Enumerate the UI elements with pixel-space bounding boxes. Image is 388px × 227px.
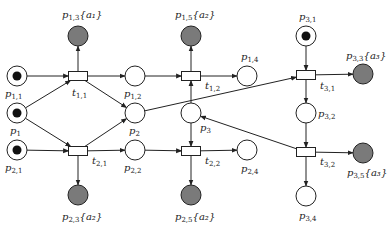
place-label-p13: p1,3{a₁} — [62, 9, 102, 22]
token-icon — [302, 32, 311, 41]
place-p24 — [237, 140, 257, 160]
place-label-p14: p1,4 — [241, 51, 259, 64]
transition-label-t31: t3,1 — [320, 80, 335, 93]
place-label-p31: p3,1 — [299, 11, 317, 24]
transition-label-t22: t2,2 — [205, 155, 220, 168]
place-label-p22: p2,2 — [124, 162, 142, 175]
place-p14 — [237, 66, 257, 86]
place-label-p35: p3,5{a₃} — [347, 167, 387, 180]
arc-t21-to-p2 — [85, 119, 127, 147]
place-p22 — [125, 140, 145, 160]
token-icon — [13, 72, 22, 81]
place-p35 — [353, 143, 373, 163]
arc-t22-to-p24 — [201, 150, 238, 151]
place-label-p2: p2 — [129, 125, 140, 138]
place-p2 — [125, 103, 145, 123]
place-label-p25: p2,5{a₂} — [175, 211, 215, 224]
place-label-p3: p3 — [200, 122, 211, 135]
arc-t11-to-p2 — [85, 81, 127, 108]
transition-label-t32: t3,2 — [320, 156, 335, 169]
arc-t31-to-p33 — [316, 74, 354, 75]
transition-t21 — [69, 147, 88, 156]
place-label-p12: p1,2 — [124, 88, 142, 101]
arc-p1-to-t21 — [25, 118, 70, 146]
place-label-p15: p1,5{a₂} — [175, 9, 215, 22]
transition-t22 — [182, 147, 201, 156]
place-p32 — [296, 103, 316, 123]
place-label-p33: p3,3{a₃} — [346, 50, 386, 63]
transition-label-t12: t1,2 — [205, 80, 220, 93]
place-p3 — [181, 103, 201, 123]
transition-label-t21: t2,1 — [92, 155, 107, 168]
arc-p21-to-t21 — [27, 150, 69, 151]
place-label-p23: p2,3{a₂} — [62, 211, 102, 224]
place-p25 — [181, 185, 201, 205]
transition-t31 — [297, 71, 316, 80]
arc-t21-to-p22 — [88, 150, 126, 151]
arc-p2-to-t31 — [145, 77, 297, 111]
place-p34 — [296, 186, 316, 206]
arc-p22-to-t22 — [145, 150, 182, 151]
place-label-p32: p3,2 — [318, 108, 336, 121]
place-label-p24: p2,4 — [241, 163, 259, 176]
place-p15 — [181, 26, 201, 46]
token-icon — [13, 146, 22, 155]
place-label-p34: p3,4 — [299, 210, 317, 223]
place-p12 — [125, 66, 145, 86]
transition-t12 — [182, 72, 201, 81]
place-p13 — [68, 26, 88, 46]
transition-label-t11: t1,1 — [72, 87, 87, 100]
token-icon — [13, 109, 22, 118]
arc-p1-to-t11 — [26, 81, 71, 108]
transition-t32 — [297, 148, 316, 157]
place-label-p1: p1 — [10, 125, 21, 138]
place-label-p11: p1,1 — [5, 88, 23, 101]
petri-net-diagram: p1,1p1p2,1p1,3{a₁}p2,3{a₂}p1,2p2p2,2p1,5… — [0, 0, 388, 227]
place-label-p21: p2,1 — [5, 162, 23, 175]
arc-t32-to-p35 — [316, 152, 354, 153]
place-p23 — [68, 185, 88, 205]
place-p33 — [353, 64, 373, 84]
transition-t11 — [69, 72, 88, 81]
